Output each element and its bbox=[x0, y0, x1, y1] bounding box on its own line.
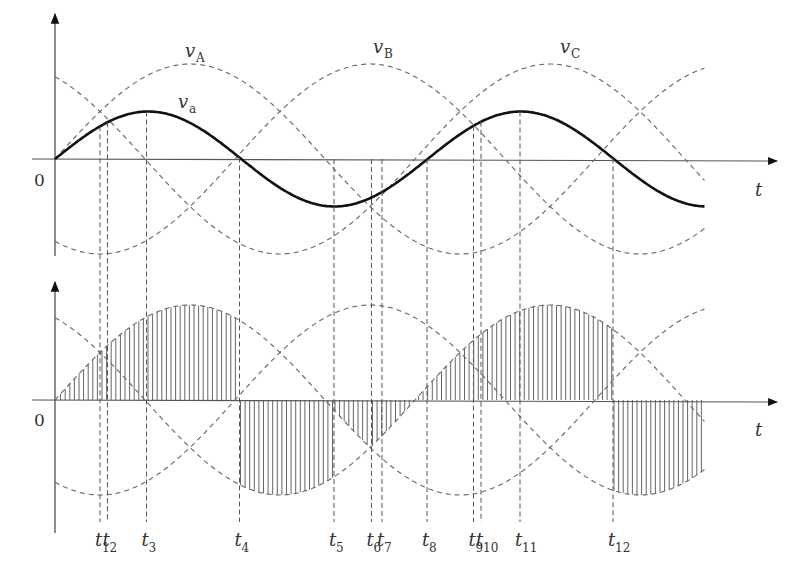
svg-text:B: B bbox=[384, 47, 393, 61]
svg-text:v: v bbox=[373, 36, 383, 57]
svg-text:v: v bbox=[185, 40, 195, 61]
top-t-axis-label: t bbox=[755, 179, 763, 200]
svg-text:A: A bbox=[195, 51, 205, 65]
marker-label-sub: 5 bbox=[336, 541, 344, 555]
bottom-origin-label: 0 bbox=[34, 410, 45, 430]
marker-label-sub: 11 bbox=[522, 541, 537, 555]
label-vC: v C bbox=[560, 36, 580, 61]
svg-text:v: v bbox=[560, 36, 570, 57]
marker-label-sub: 12 bbox=[615, 541, 630, 555]
bottom-panel: 0 t bbox=[32, 282, 777, 533]
marker-label-sub: 2 bbox=[110, 541, 118, 555]
waveform-diagram: 0 t v A v B v C v a 0 t t1t2t3t4t5t6t7t8… bbox=[0, 0, 802, 576]
svg-text:C: C bbox=[571, 47, 580, 61]
label-vA: v A bbox=[185, 40, 205, 65]
marker-label-sub: 8 bbox=[429, 541, 437, 555]
top-panel: 0 t v A v B v C v a bbox=[32, 14, 777, 256]
marker-label-sub: 7 bbox=[384, 541, 392, 555]
marker-label-sub: 3 bbox=[149, 541, 157, 555]
marker-label-sub: 10 bbox=[483, 541, 498, 555]
top-origin-label: 0 bbox=[34, 170, 45, 190]
svg-text:a: a bbox=[189, 102, 196, 116]
label-va: v a bbox=[178, 91, 196, 116]
top-t-axis bbox=[32, 159, 777, 161]
bottom-t-axis-label: t bbox=[755, 419, 763, 440]
marker-label-sub: 4 bbox=[242, 541, 250, 555]
label-vB: v B bbox=[373, 36, 393, 61]
svg-text:v: v bbox=[178, 91, 188, 112]
